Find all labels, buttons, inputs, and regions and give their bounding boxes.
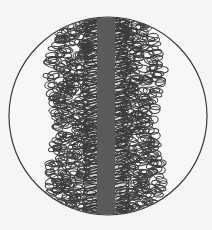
magnifier-lens-diagram [0, 0, 212, 230]
diagram-canvas [0, 0, 212, 230]
yarn-core [97, 0, 115, 230]
